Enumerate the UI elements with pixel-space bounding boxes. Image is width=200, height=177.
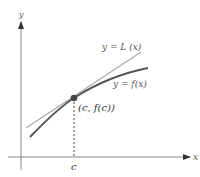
c-tick-label: c bbox=[71, 161, 77, 172]
linear-approximation-diagram: x y y = L (x) y = f(x) (c, f(c)) c bbox=[0, 0, 200, 177]
tangent-line bbox=[26, 52, 141, 128]
function-label: y = f(x) bbox=[112, 79, 147, 89]
y-axis-label: y bbox=[18, 10, 24, 19]
point-label: (c, f(c)) bbox=[78, 102, 115, 113]
x-axis-label: x bbox=[193, 152, 198, 162]
tangent-label: y = L (x) bbox=[101, 42, 142, 52]
tangency-point bbox=[71, 95, 78, 102]
